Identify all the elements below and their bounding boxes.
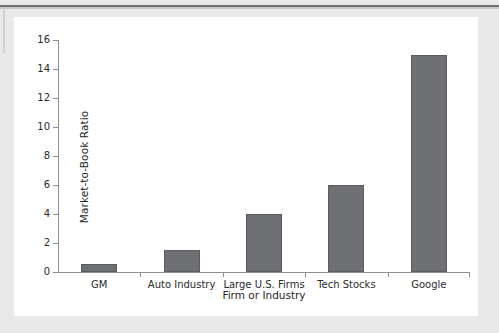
y-tick-12 (53, 98, 58, 99)
y-tick-10 (53, 127, 58, 128)
y-tick-6 (53, 185, 58, 186)
plot-area: 0246810121416 GMAuto IndustryLarge U.S. … (58, 40, 470, 272)
y-tick-label-16: 16 (37, 35, 50, 45)
y-tick-0 (53, 272, 58, 273)
bar-auto-industry (164, 250, 200, 272)
y-tick-14 (53, 69, 58, 70)
figure-page: Market-to-Book Ratio 0246810121416 GMAut… (0, 0, 499, 333)
x-tick-3 (305, 272, 306, 277)
page-top-rule-shadow (0, 7, 499, 9)
y-tick-16 (53, 40, 58, 41)
x-tick-1 (140, 272, 141, 277)
bar-tech-stocks (328, 185, 364, 272)
chart-card: Market-to-Book Ratio 0246810121416 GMAut… (14, 17, 478, 316)
bar-google (411, 55, 447, 273)
x-tick-end (469, 272, 470, 277)
y-tick-label-0: 0 (44, 267, 50, 277)
y-tick-label-8: 8 (44, 151, 50, 161)
y-tick-2 (53, 243, 58, 244)
y-tick-label-12: 12 (37, 93, 50, 103)
x-tick-4 (388, 272, 389, 277)
scan-artifact-line (3, 9, 5, 53)
bar-large-u-s-firms (246, 214, 282, 272)
y-tick-8 (53, 156, 58, 157)
y-tick-label-6: 6 (44, 180, 50, 190)
y-tick-4 (53, 214, 58, 215)
x-axis-title: Firm or Industry (58, 289, 470, 301)
y-tick-label-10: 10 (37, 122, 50, 132)
x-axis-line (58, 272, 470, 273)
y-tick-label-2: 2 (44, 238, 50, 248)
y-tick-label-14: 14 (37, 64, 50, 74)
y-tick-label-4: 4 (44, 209, 50, 219)
x-tick-2 (223, 272, 224, 277)
y-axis-line (58, 40, 59, 272)
bar-gm (81, 264, 117, 272)
